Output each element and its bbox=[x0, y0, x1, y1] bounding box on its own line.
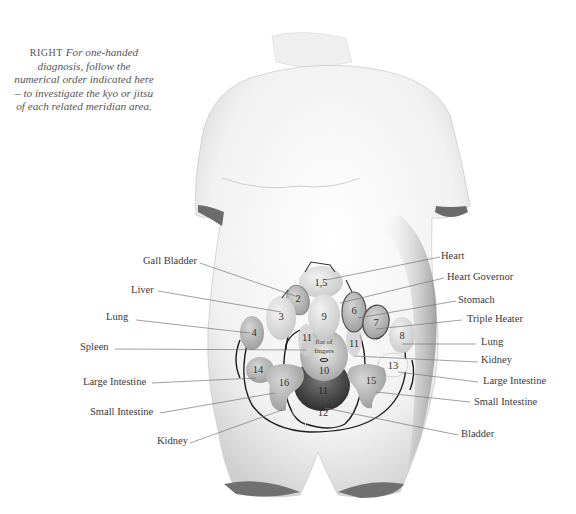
zone-1-5-label: 1,5 bbox=[314, 277, 327, 288]
label-lung-right: Lung bbox=[481, 336, 504, 347]
label-lung-left: Lung bbox=[106, 311, 129, 322]
label-small-intestine-right: Small Intestine bbox=[474, 396, 538, 407]
zone-10-label: 10 bbox=[319, 365, 330, 376]
zone-11-lower-label: 11 bbox=[318, 385, 328, 396]
zone-16-label: 16 bbox=[279, 377, 290, 388]
label-large-intestine-right: Large Intestine bbox=[483, 375, 546, 386]
label-gall-bladder: Gall Bladder bbox=[143, 255, 197, 266]
center-note-line1: flat of bbox=[316, 338, 334, 346]
zone-11-left-label: 11 bbox=[302, 332, 312, 343]
torso-diagram: 1,5 2 3 4 6 7 8 9 11 11 flat of fingers … bbox=[0, 0, 576, 514]
center-note-line2: fingers bbox=[314, 347, 334, 355]
label-large-intestine-left: Large Intestine bbox=[83, 376, 146, 387]
zone-14-label: 14 bbox=[253, 364, 264, 375]
zone-15-label: 15 bbox=[366, 375, 377, 386]
label-spleen: Spleen bbox=[80, 341, 109, 352]
zone-9-label: 9 bbox=[321, 311, 326, 322]
label-small-intestine-left: Small Intestine bbox=[90, 406, 154, 417]
zone-11-right-label: 11 bbox=[349, 338, 359, 349]
label-bladder: Bladder bbox=[461, 428, 495, 439]
zone-3-label: 3 bbox=[278, 311, 283, 322]
label-heart: Heart bbox=[441, 250, 464, 261]
label-liver: Liver bbox=[131, 284, 154, 295]
label-kidney-right: Kidney bbox=[481, 354, 513, 365]
label-heart-governor: Heart Governor bbox=[447, 271, 514, 282]
zone-6-label: 6 bbox=[351, 305, 356, 316]
neck bbox=[272, 32, 352, 67]
label-triple-heater: Triple Heater bbox=[467, 313, 523, 324]
label-kidney-left: Kidney bbox=[157, 435, 189, 446]
zone-8-label: 8 bbox=[399, 330, 404, 341]
zone-7-label: 7 bbox=[373, 317, 378, 328]
label-stomach: Stomach bbox=[458, 294, 495, 305]
zone-13-label: 13 bbox=[388, 360, 399, 371]
zone-4-label: 4 bbox=[251, 327, 257, 338]
zone-2-label: 2 bbox=[295, 293, 300, 304]
